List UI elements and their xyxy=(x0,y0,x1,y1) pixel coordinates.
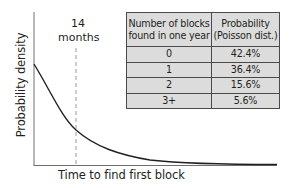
table-row: 0 42.4% xyxy=(127,47,280,63)
cell-probability: 42.4% xyxy=(212,47,280,63)
table-row: 3+ 5.6% xyxy=(127,93,280,109)
cell-blocks: 2 xyxy=(127,78,212,94)
header-probability-line1: Probability xyxy=(221,18,270,29)
x-axis-label: Time to find first block xyxy=(58,168,185,182)
table-header-row: Number of blocks found in one year Proba… xyxy=(127,13,280,47)
cell-blocks: 1 xyxy=(127,62,212,78)
header-blocks: Number of blocks found in one year xyxy=(127,13,212,47)
annotation-unit: months xyxy=(58,31,98,45)
cell-probability: 15.6% xyxy=(212,78,280,94)
header-probability: Probability (Poisson dist.) xyxy=(212,13,280,47)
y-axis-label: Probability density xyxy=(14,20,28,150)
poisson-probability-table: Number of blocks found in one year Proba… xyxy=(126,12,280,109)
header-probability-line2: (Poisson dist.) xyxy=(213,30,277,41)
table-row: 1 36.4% xyxy=(127,62,280,78)
header-blocks-line2: found in one year xyxy=(128,30,209,41)
months-annotation: 14 months xyxy=(58,17,98,45)
cell-probability: 36.4% xyxy=(212,62,280,78)
table-row: 2 15.6% xyxy=(127,78,280,94)
cell-probability: 5.6% xyxy=(212,93,280,109)
annotation-value: 14 xyxy=(58,17,98,31)
cell-blocks: 3+ xyxy=(127,93,212,109)
cell-blocks: 0 xyxy=(127,47,212,63)
header-blocks-line1: Number of blocks xyxy=(128,18,209,29)
